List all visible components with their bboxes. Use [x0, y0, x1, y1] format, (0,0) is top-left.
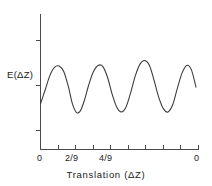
y-axis-ticks	[36, 41, 41, 131]
x-tick-label-four-ninths: 4/9	[99, 153, 112, 163]
x-tick-label-origin: 0	[37, 153, 42, 163]
energy-translation-plot: E(ΔZ) 0 2/9 4/9 0 Translation (ΔZ)	[0, 0, 212, 186]
energy-curve	[41, 61, 197, 113]
y-axis-label: E(ΔZ)	[7, 70, 33, 80]
x-axis-ticks	[41, 145, 199, 150]
x-tick-label-end: 0	[194, 153, 199, 163]
x-axis-label: Translation (ΔZ)	[0, 169, 212, 180]
x-tick-label-two-ninths: 2/9	[65, 153, 78, 163]
